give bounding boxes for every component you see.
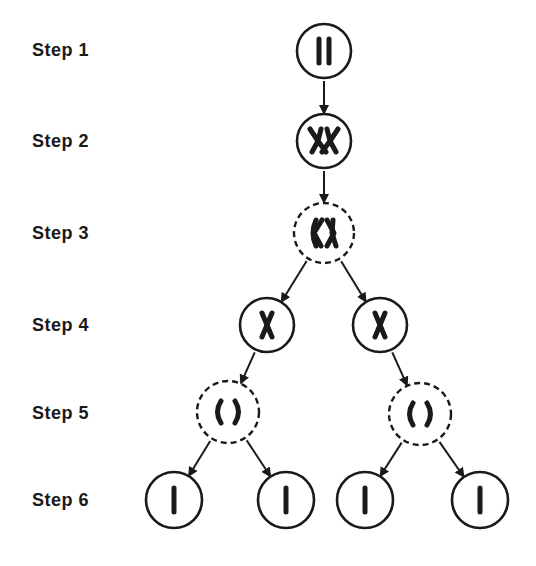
meiosis-diagram (0, 0, 536, 566)
arrows (189, 81, 463, 476)
cell-step-6 (258, 472, 314, 528)
dissolving-membrane (294, 203, 354, 263)
arrow-icon (439, 442, 463, 476)
cell-step-6 (146, 472, 202, 528)
two-separating-chromosomes-icon (313, 220, 336, 246)
arrow-icon (381, 443, 402, 476)
single-x-chromosome-icon (375, 313, 385, 337)
arrow-icon (341, 261, 365, 301)
dissolving-membrane (389, 383, 451, 445)
cell-step-5 (197, 381, 259, 443)
cell-step-6 (452, 472, 508, 528)
dissolving-membrane (197, 381, 259, 443)
cell-step-2 (297, 114, 351, 168)
arrow-icon (282, 261, 307, 301)
arrow-icon (392, 352, 407, 384)
cells (146, 24, 508, 528)
cell-step-4 (240, 298, 294, 352)
arrow-icon (247, 440, 270, 475)
cell-step-6 (337, 472, 393, 528)
crossing-over-tetrad-icon (310, 129, 338, 152)
two-parallel-chromosomes-icon (319, 39, 329, 63)
cell-membrane (297, 24, 351, 78)
separating-chromatids-icon (410, 403, 431, 425)
cell-step-5 (389, 383, 451, 445)
arrow-icon (241, 352, 255, 382)
cell-step-3 (294, 203, 354, 263)
cell-membrane (297, 114, 351, 168)
separating-chromatids-icon (218, 401, 239, 423)
cell-step-4 (353, 298, 407, 352)
cell-step-1 (297, 24, 351, 78)
single-x-chromosome-icon (262, 313, 272, 337)
arrow-icon (189, 441, 210, 475)
